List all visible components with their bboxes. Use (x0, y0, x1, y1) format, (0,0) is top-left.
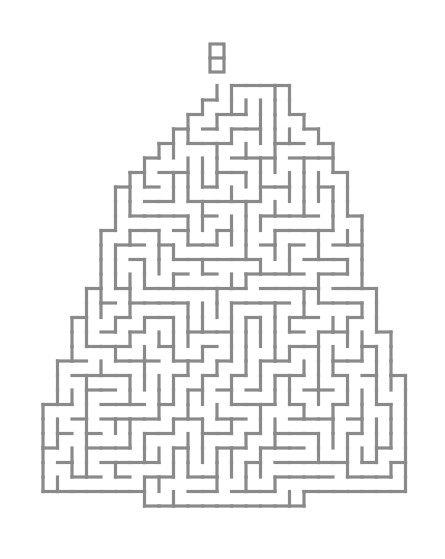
maze-board (0, 0, 445, 559)
maze-walls (43, 86, 406, 507)
